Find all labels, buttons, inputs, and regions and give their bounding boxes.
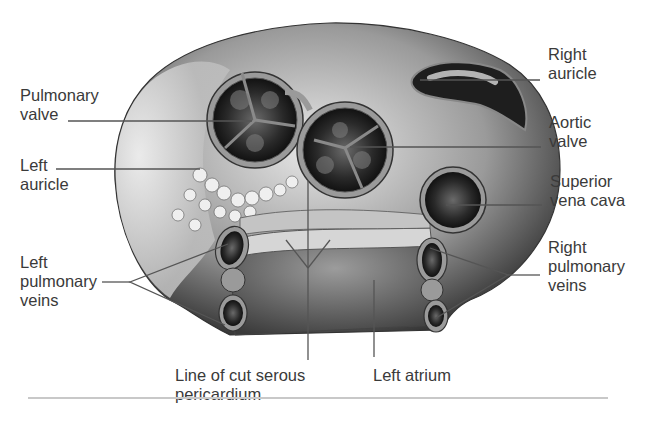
pulmonary-valve-shape xyxy=(207,72,303,168)
label-left-atrium: Left atrium xyxy=(373,366,451,385)
label-right-pulmonary-veins: Right pulmonary veins xyxy=(548,238,625,295)
label-superior-vena-cava: Superior vena cava xyxy=(550,172,625,210)
label-left-auricle: Left auricle xyxy=(20,156,69,194)
heart-diagram: Pulmonary valve Left auricle Left pulmon… xyxy=(0,0,646,432)
label-left-pulmonary-veins: Left pulmonary veins xyxy=(20,253,97,310)
label-aortic-valve: Aortic valve xyxy=(549,113,591,151)
bottom-divider xyxy=(28,397,608,399)
label-pulmonary-valve: Pulmonary valve xyxy=(20,86,99,124)
label-right-auricle: Right auricle xyxy=(548,45,597,83)
superior-vena-cava-shape xyxy=(420,167,486,233)
aortic-valve-shape xyxy=(297,102,393,198)
left-atrium-shape xyxy=(230,240,440,335)
